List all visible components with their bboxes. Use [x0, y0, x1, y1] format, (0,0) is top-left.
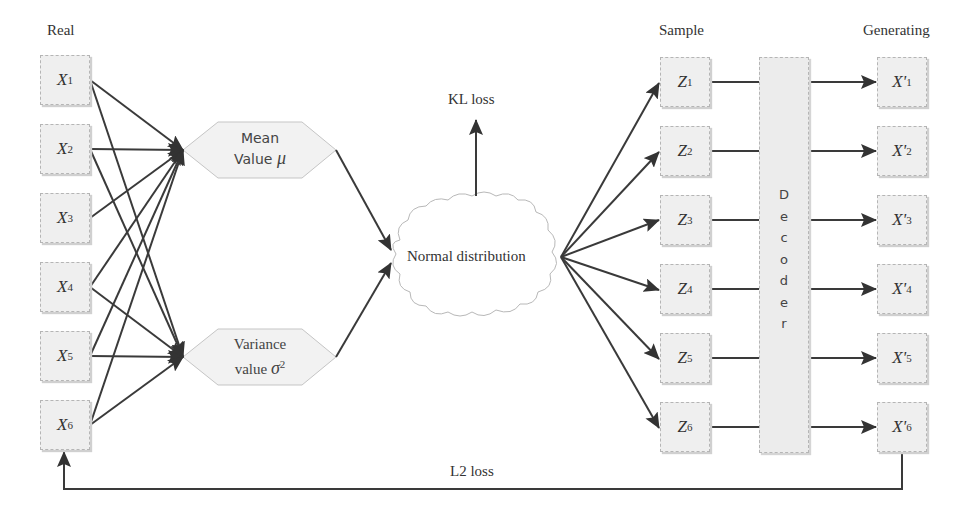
output-node-x5-prime: X'5: [877, 333, 927, 383]
input-node-x5: X5: [40, 331, 90, 381]
latent-node-z2: Z2: [660, 126, 710, 176]
encoder-edges: [90, 80, 183, 425]
kl-loss-label: KL loss: [448, 91, 495, 108]
decoder-to-output-edges: [809, 82, 876, 427]
latent-node-z5: Z5: [660, 333, 710, 383]
latent-node-z6: Z6: [660, 402, 710, 452]
real-label: Real: [47, 22, 75, 39]
latent-node-z4: Z4: [660, 264, 710, 314]
output-node-x6-prime: X'6: [877, 402, 927, 452]
output-node-x3-prime: X'3: [877, 195, 927, 245]
z-to-decoder-edges: [710, 82, 759, 427]
normal-distribution-label: Normal distribution: [407, 248, 526, 265]
mean-line2: Value μ: [218, 148, 302, 169]
l2-loss-label: L2 loss: [450, 463, 494, 480]
input-node-x1: X1: [40, 55, 90, 105]
decoder-letter: o: [760, 249, 808, 271]
decoder-label: D e c o d e r: [760, 184, 808, 335]
latent-node-z1: Z1: [660, 57, 710, 107]
input-node-x4: X4: [40, 262, 90, 312]
decoder-letter: D: [760, 184, 808, 206]
mean-value-text: Mean Value μ: [218, 128, 302, 169]
sample-label: Sample: [659, 22, 704, 39]
input-node-x6: X6: [40, 400, 90, 450]
variance-line1: Variance: [218, 334, 302, 354]
variance-line2: value σ2: [218, 354, 302, 379]
decoder-letter: c: [760, 227, 808, 249]
decoder-block: D e c o d e r: [759, 57, 809, 453]
mean-line1: Mean: [218, 128, 302, 148]
latent-node-z3: Z3: [660, 195, 710, 245]
input-node-x3: X3: [40, 193, 90, 243]
decoder-letter: e: [760, 206, 808, 228]
decoder-letter: d: [760, 270, 808, 292]
decoder-letter: e: [760, 292, 808, 314]
sampling-edges: [561, 83, 659, 428]
output-node-x2-prime: X'2: [877, 126, 927, 176]
input-node-x2: X2: [40, 124, 90, 174]
decoder-letter: r: [760, 313, 808, 335]
generating-label: Generating: [863, 22, 930, 39]
to-normal-edges: [336, 150, 391, 357]
output-node-x1-prime: X'1: [877, 57, 927, 107]
variance-value-text: Variance value σ2: [218, 334, 302, 379]
output-node-x4-prime: X'4: [877, 264, 927, 314]
